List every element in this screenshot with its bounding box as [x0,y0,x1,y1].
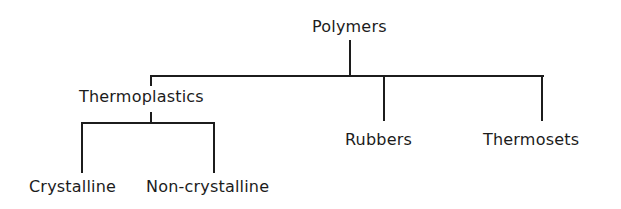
node-polymers: Polymers [312,18,387,36]
connector-root-stem [349,40,351,77]
connector-crystalline-stem [81,122,83,173]
node-rubbers: Rubbers [345,131,412,149]
connector-thermoplastics-stem [150,75,152,86]
polymer-classification-diagram: Polymers Thermoplastics Rubbers Thermose… [0,0,621,209]
connector-thermosets-stem [541,75,543,121]
node-thermoplastics: Thermoplastics [79,88,204,106]
connector-non-crystalline-stem [213,122,215,173]
node-thermosets: Thermosets [483,131,579,149]
node-non-crystalline: Non-crystalline [146,178,269,196]
node-crystalline: Crystalline [29,178,116,196]
connector-level1-bar [150,75,544,77]
connector-level2-bar [81,122,215,124]
connector-rubbers-stem [383,75,385,121]
